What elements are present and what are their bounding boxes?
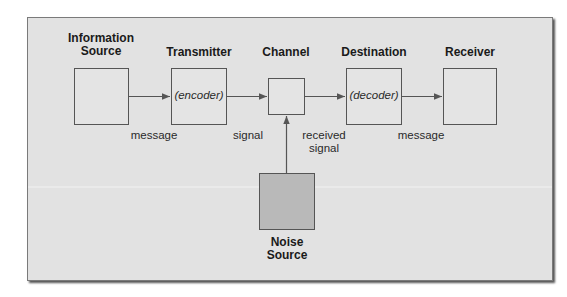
- noise-source-box: [260, 174, 315, 230]
- noise-source-title: Noise Source: [247, 236, 327, 262]
- noise-source-title-line2: Source: [247, 249, 327, 262]
- destination-inner-label: (decoder): [346, 89, 402, 101]
- edge-label-signal: signal: [218, 129, 278, 142]
- channel-title: Channel: [246, 46, 326, 59]
- edge-label-received-signal: received signal: [294, 129, 354, 155]
- edge-label-received-line1: received: [294, 129, 354, 142]
- receiver-title: Receiver: [430, 46, 510, 59]
- edge-label-message-2: message: [391, 129, 451, 142]
- information-source-title: Information Source: [61, 32, 141, 58]
- destination-title: Destination: [334, 46, 414, 59]
- transmitter-title: Transmitter: [159, 46, 239, 59]
- edge-label-message-1: message: [124, 129, 184, 142]
- transmitter-inner-label: (encoder): [171, 89, 227, 101]
- channel-box: [269, 79, 305, 115]
- information-source-box: [75, 69, 129, 125]
- edge-label-received-line2: signal: [294, 142, 354, 155]
- receiver-box: [444, 69, 497, 125]
- information-source-title-line2: Source: [61, 45, 141, 58]
